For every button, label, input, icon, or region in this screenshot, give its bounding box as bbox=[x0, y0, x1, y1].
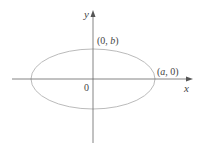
top-vertex-label: (0, b) bbox=[97, 35, 119, 47]
ellipse-diagram: y x 0 (0, b) (a, 0) bbox=[0, 0, 203, 159]
origin-label: 0 bbox=[84, 82, 89, 93]
right-vertex-label: (a, 0) bbox=[157, 66, 179, 78]
x-axis-arrow-icon bbox=[186, 77, 193, 82]
x-axis-label: x bbox=[183, 82, 189, 94]
y-axis-label: y bbox=[83, 8, 89, 20]
y-axis-arrow-icon bbox=[91, 10, 96, 17]
